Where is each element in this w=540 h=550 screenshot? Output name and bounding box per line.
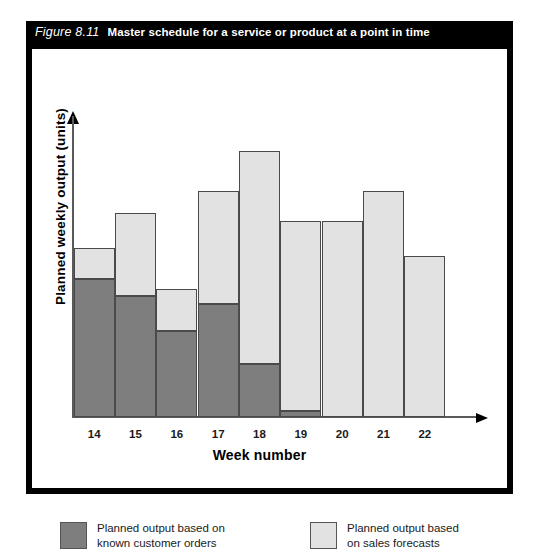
legend-label-known-orders: Planned output based on known customer o… [97,521,225,550]
bar-segment-forecast-week-19 [280,221,321,412]
x-tick-label-21: 21 [363,428,404,440]
x-tick-label-14: 14 [74,428,115,440]
x-tick-label-17: 17 [198,428,239,440]
bar-segment-orders-week-18 [239,364,280,417]
figure-number: Figure 8.11 [35,25,100,39]
bar-segment-forecast-week-18 [239,151,280,364]
chart-frame: Planned weekly output (units) 1415161718… [26,43,513,494]
x-axis-line [72,416,477,418]
x-tick-label-19: 19 [280,428,321,440]
bar-segment-forecast-week-17 [198,191,239,304]
figure-title: Master schedule for a service or product… [108,26,430,38]
bar-segment-forecast-week-22 [404,256,445,417]
bar-segment-forecast-week-20 [322,221,363,417]
bar-segment-orders-week-17 [198,304,239,417]
legend-swatch-known-orders [60,522,87,549]
figure-container: Figure 8.11 Master schedule for a servic… [26,21,513,494]
chart-legend: Planned output based on known customer o… [60,521,490,550]
legend-label-sales-forecasts: Planned output based on sales forecasts [347,521,459,550]
x-axis-arrow-icon [476,413,488,423]
bar-segment-forecast-week-21 [363,191,404,417]
legend-item-known-orders: Planned output based on known customer o… [60,521,310,550]
legend-item-sales-forecasts: Planned output based on sales forecasts [310,521,459,550]
bar-segment-orders-week-15 [115,296,156,416]
chart-plot-area: Planned weekly output (units) 1415161718… [32,49,507,488]
bar-segment-forecast-week-16 [156,289,197,332]
y-axis-label: Planned weekly output (units) [53,92,68,322]
figure-title-bar: Figure 8.11 Master schedule for a servic… [26,21,513,43]
bar-segment-forecast-week-15 [115,213,156,296]
x-tick-label-22: 22 [404,428,445,440]
x-tick-label-15: 15 [115,428,156,440]
x-tick-label-20: 20 [322,428,363,440]
bar-segment-orders-week-14 [74,279,115,417]
x-axis-label: Week number [74,447,446,463]
legend-swatch-sales-forecasts [310,522,337,549]
x-tick-label-16: 16 [156,428,197,440]
bar-segment-orders-week-19 [280,411,321,416]
bar-segment-orders-week-16 [156,331,197,416]
x-tick-label-18: 18 [239,428,280,440]
bar-segment-forecast-week-14 [74,248,115,278]
bar-series-group [74,116,446,417]
